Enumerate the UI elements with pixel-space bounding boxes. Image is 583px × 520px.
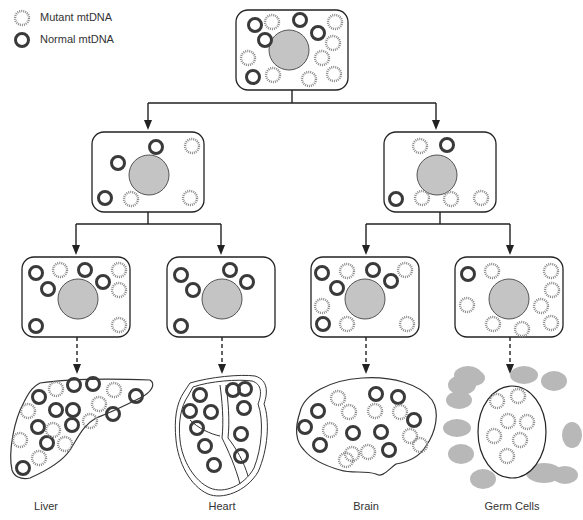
germ-cell-blob-icon: [448, 444, 474, 464]
mutant-mtdna-icon: [58, 437, 72, 451]
mutant-mtdna-icon: [107, 383, 121, 397]
germ-cells: [443, 366, 582, 489]
cell-gen1-0: [92, 132, 204, 212]
normal-mtdna-icon: [68, 379, 81, 392]
mutant-mtdna-icon: [92, 397, 106, 411]
normal-mtdna-icon: [191, 422, 204, 435]
tissue-label-liver: Liver: [34, 500, 58, 512]
heart-outline-icon: [175, 375, 267, 496]
normal-mtdna-icon: [383, 444, 396, 457]
mutant-mtdna-icon: [331, 391, 345, 405]
dashed-arrows: [77, 337, 510, 368]
germ-cell-blob-icon: [454, 366, 482, 384]
normal-mtdna-icon: [312, 405, 325, 418]
nucleus-icon: [202, 279, 242, 319]
normal-mtdna-icon: [194, 389, 207, 402]
mutant-mtdna-icon: [368, 404, 382, 418]
tissue-label-germ-cells: Germ Cells: [484, 500, 539, 512]
normal-mtdna-icon: [205, 406, 218, 419]
mutant-mtdna-icon: [393, 405, 407, 419]
legend-mutant-label: Mutant mtDNA: [40, 11, 112, 23]
mutant-mtdna-icon: [13, 433, 27, 447]
mutant-mtdna-icon: [361, 445, 375, 459]
normal-mtdna-icon: [50, 404, 63, 417]
normal-mtdna-icon: [238, 402, 251, 415]
mutant-mtdna-icon: [32, 451, 46, 465]
normal-mtdna-icon: [370, 388, 383, 401]
mtdna-segregation-diagram: [0, 0, 583, 520]
cell-brain-precursor: [311, 257, 419, 337]
normal-mtdna-icon: [17, 462, 30, 475]
nucleus-icon: [417, 155, 457, 195]
cell-liver-precursor: [22, 257, 130, 337]
normal-mtdna-icon: [235, 450, 248, 463]
cell-gen1-1: [384, 132, 496, 212]
normal-mtdna-icon: [375, 426, 388, 439]
germ-cell-blob-icon: [443, 419, 471, 437]
mutant-mtdna-icon: [46, 423, 60, 437]
cell-heart-precursor: [167, 257, 275, 337]
nucleus-icon: [129, 155, 169, 195]
dashed-arrowheads: [73, 364, 514, 374]
normal-mtdna-icon: [299, 421, 312, 434]
mutant-mtdna-icon: [12, 8, 32, 28]
brain-mtdna: [299, 388, 428, 468]
normal-mtdna-icon: [347, 427, 360, 440]
mutant-mtdna-icon: [21, 404, 35, 418]
normal-mtdna-icon: [392, 391, 405, 404]
normal-mtdna-icon: [208, 459, 221, 472]
mutant-mtdna-icon: [342, 405, 356, 419]
nucleus-icon: [269, 30, 309, 70]
germ-cell-blob-icon: [510, 366, 538, 384]
cell-germ-precursor: [455, 257, 563, 337]
normal-mtdna-icon: [12, 30, 32, 50]
nucleus-icon: [345, 279, 385, 319]
normal-mtdna-icon: [314, 439, 327, 452]
germ-cell-blob-icon: [552, 466, 578, 484]
nucleus-icon: [58, 279, 98, 319]
normal-mtdna-icon: [184, 405, 197, 418]
liver-mtdna: [13, 378, 143, 475]
germ-cell-blob-icon: [446, 391, 472, 409]
mutant-mtdna-icon: [323, 423, 337, 437]
normal-mtdna-icon: [67, 404, 80, 417]
germ-cell-blob-icon: [562, 422, 582, 448]
germ-cell-blob-icon: [470, 469, 496, 489]
cells-layer: [22, 10, 563, 337]
mutant-mtdna-icon: [49, 382, 63, 396]
mutant-mtdna-icon: [83, 414, 97, 428]
normal-mtdna-icon: [66, 419, 79, 432]
germ-cell-blob-icon: [541, 371, 567, 391]
cell-zygote: [236, 10, 348, 90]
normal-mtdna-icon: [235, 428, 248, 441]
normal-mtdna-icon: [408, 414, 421, 427]
legend-normal-label: Normal mtDNA: [40, 33, 114, 45]
tissue-label-heart: Heart: [209, 500, 236, 512]
normal-mtdna-icon: [107, 408, 120, 421]
normal-mtdna-icon: [199, 440, 212, 453]
tissue-label-brain: Brain: [353, 500, 379, 512]
nucleus-icon: [489, 279, 529, 319]
normal-mtdna-icon: [41, 437, 54, 450]
normal-mtdna-icon: [33, 391, 46, 404]
organs-layer: [13, 366, 582, 489]
normal-mtdna-icon: [32, 421, 45, 434]
